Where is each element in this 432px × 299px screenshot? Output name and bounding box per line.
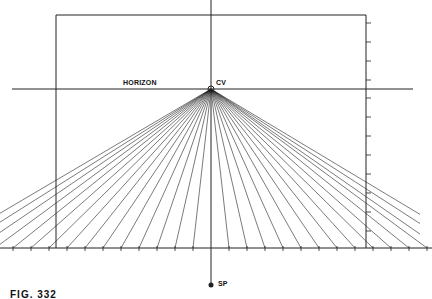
vanishing-line xyxy=(49,89,211,248)
vanishing-line xyxy=(211,89,373,248)
vanishing-line xyxy=(13,89,211,248)
vanishing-line xyxy=(211,89,247,248)
vanishing-line xyxy=(0,89,211,213)
vanishing-line xyxy=(103,89,211,248)
vanishing-line xyxy=(211,89,229,248)
vanishing-line xyxy=(211,89,409,248)
vanishing-line xyxy=(211,89,301,248)
vanishing-line xyxy=(85,89,211,248)
vanishing-line xyxy=(121,89,211,248)
vanishing-line xyxy=(211,89,319,248)
figure-caption: FIG. 332 xyxy=(10,289,57,299)
vanishing-line xyxy=(0,89,211,222)
perspective-diagram xyxy=(0,0,432,299)
vanishing-line xyxy=(193,89,211,248)
vanishing-line xyxy=(0,89,211,232)
vanishing-line xyxy=(175,89,211,248)
vanishing-line xyxy=(211,89,355,248)
vanishing-line xyxy=(211,89,337,248)
vanishing-line xyxy=(211,89,283,248)
sp-point-icon xyxy=(209,283,214,288)
horizon-label: HORIZON xyxy=(123,79,157,86)
cv-label: CV xyxy=(216,79,226,86)
vanishing-line xyxy=(0,89,211,244)
sp-label: SP xyxy=(218,280,228,287)
vanishing-line xyxy=(211,89,420,234)
vanishing-line xyxy=(139,89,211,248)
vanishing-line xyxy=(211,89,427,248)
vanishing-line xyxy=(67,89,211,248)
vanishing-line xyxy=(211,89,420,224)
vanishing-line xyxy=(211,89,420,214)
